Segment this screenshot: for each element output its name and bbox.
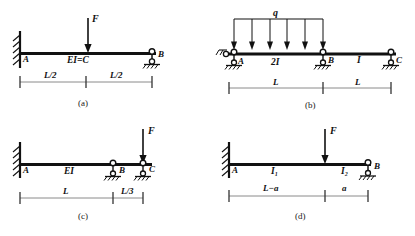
panel-caption-b: (b) [305,101,316,110]
dimension-label-left-a: L/2 [44,71,57,80]
node-label-b-d: B [374,162,380,171]
panel-a: A EI=C B F L/2 L/2 (a) [0,0,205,118]
panel-a-drawing [0,0,205,118]
node-label-b: B [158,50,164,59]
node-label-a-d: A [232,166,238,175]
node-label-b-b: B [328,56,334,65]
dimension-line-a [20,76,152,88]
dimension-label-right-d: a [342,184,347,193]
fixed-support-a-c [13,142,20,178]
dimension-label-right-a: L/2 [110,71,123,80]
panel-caption-c: (c) [78,212,88,221]
segment-label-i: I [357,56,361,66]
force-arrow-d [321,129,328,164]
panel-caption-d: (d) [295,212,306,221]
fixed-support-a-d [222,142,229,178]
force-label-f: F [92,14,99,24]
node-label-c-b: C [396,56,402,65]
dimension-label-right-b: L [355,78,361,87]
node-label-a-b: A [238,57,244,66]
fixed-support-a [13,31,20,68]
node-label-c-c: C [149,165,155,174]
dimension-label-left-c: L [63,187,69,196]
force-arrow-c [139,129,146,164]
panel-d-drawing [205,118,415,236]
segment-label-i2: I₂ [341,167,348,177]
beam-property-label-a: EI=C [67,56,89,66]
panel-d: A I₁ I₂ B F L−a a (d) [205,118,415,236]
node-label-b-c: B [119,166,125,175]
dimension-label-right-c: L/3 [121,187,134,196]
panel-caption-a: (a) [78,99,88,108]
distributed-load-b [231,19,326,50]
beam-property-label-c: EI [64,167,74,177]
distributed-load-label-q: q [273,8,278,18]
panel-c: A EI B C F L L/3 (c) [0,118,205,236]
segment-label-i1: I₁ [271,167,278,177]
panel-c-drawing [0,118,205,236]
dimension-line-b [229,82,391,94]
beam-diagram-figure: A EI=C B F L/2 L/2 (a) [0,0,415,236]
segment-label-2i: 2I [271,58,279,68]
force-label-f-c: F [148,126,155,136]
force-arrow-a [84,18,91,53]
node-label-a: A [23,55,29,64]
node-label-a-c: A [23,166,29,175]
panel-b: q A 2I B I C L L (b) [205,0,415,118]
dimension-line-d [229,190,368,202]
dimension-label-left-b: L [273,78,279,87]
dimension-label-left-d: L−a [263,184,278,193]
force-label-f-d: F [330,126,337,136]
